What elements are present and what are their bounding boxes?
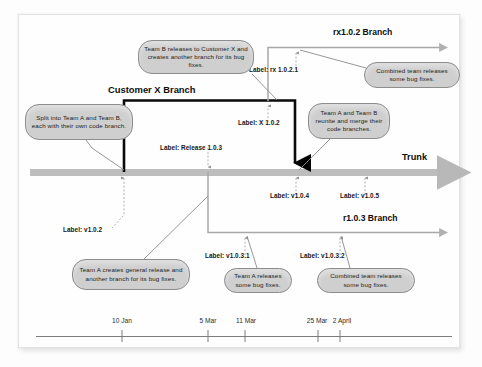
callout-combined-releases-top[interactable]: Combined team releases some bug fixes. bbox=[364, 62, 460, 88]
timeline-tick-label-4: 2 April bbox=[333, 317, 351, 324]
r103-branch-line bbox=[208, 172, 440, 233]
callout-team-a-bugfixes[interactable]: Team A releases some bug fixes. bbox=[224, 268, 292, 293]
timeline-tick-label-3: 25 Mar bbox=[307, 317, 328, 324]
branch-title-trunk: Trunk bbox=[402, 152, 427, 162]
version-label-v1031: Label: v1.0.3.1 bbox=[205, 252, 250, 259]
diagram-canvas: Customer X Branch rx1.0.2 Branch r1.0.3 … bbox=[0, 0, 482, 367]
callout-leaders bbox=[86, 50, 366, 268]
version-label-v1032: Label: v1.0.3.2 bbox=[300, 252, 345, 259]
branch-title-rx102: rx1.0.2 Branch bbox=[333, 27, 392, 37]
callout-team-b-release[interactable]: Team B releases to Customer X and create… bbox=[138, 40, 254, 74]
diagram-page: Customer X Branch rx1.0.2 Branch r1.0.3 … bbox=[0, 0, 482, 367]
branch-title-r103: r1.0.3 Branch bbox=[343, 213, 397, 223]
version-label-release-103: Label: Release 1.0.3 bbox=[160, 144, 222, 151]
version-label-rx-1021: Label: rx 1.0.2.1 bbox=[249, 66, 298, 73]
timeline-tick-label-2: 11 Mar bbox=[236, 317, 256, 324]
callout-teams-reunite[interactable]: Team A and Team B reunite and merge thei… bbox=[308, 103, 390, 139]
callout-combined-releases-bottom[interactable]: Combined team releases some bug fixes. bbox=[317, 268, 415, 293]
customer-x-branch-line bbox=[124, 101, 295, 173]
version-label-v102: Label: v1.0.2 bbox=[63, 226, 102, 233]
version-label-v104: Label: v1.0.4 bbox=[270, 192, 309, 199]
timeline-tick-label-0: 10 Jan bbox=[112, 317, 132, 324]
version-label-v105: Label: v1.0.5 bbox=[340, 192, 379, 199]
callout-split-teams[interactable]: Split into Team A and Team B, each with … bbox=[25, 104, 133, 140]
version-label-x-102: Label: X 1.0.2 bbox=[238, 119, 280, 126]
timeline-tick-label-1: 5 Mar bbox=[200, 317, 217, 324]
branch-title-customer-x: Customer X Branch bbox=[108, 84, 196, 95]
timeline-axis bbox=[36, 330, 452, 342]
callout-team-a-general-release[interactable]: Team A creates general release and anoth… bbox=[72, 259, 190, 290]
